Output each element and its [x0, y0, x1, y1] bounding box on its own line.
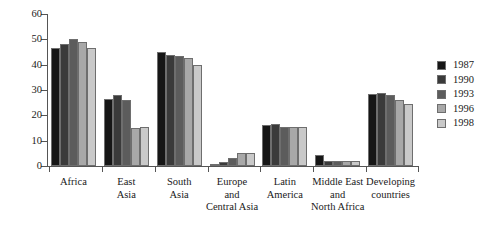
x-axis-tick-mark	[102, 166, 103, 172]
bar-group	[50, 14, 97, 166]
bar	[87, 48, 96, 166]
bar	[104, 99, 113, 166]
bar	[228, 158, 237, 166]
y-axis-tick-label: 10	[32, 135, 43, 146]
x-axis-category-label: Africa	[60, 176, 87, 189]
bar	[51, 48, 60, 166]
bar-group	[103, 14, 150, 166]
legend-item[interactable]: 1987	[437, 58, 474, 73]
y-axis-tick-label: 30	[32, 85, 43, 96]
legend-swatch	[437, 119, 446, 128]
bar	[237, 153, 246, 166]
legend-swatch	[437, 90, 446, 99]
bar	[60, 44, 69, 166]
legend-item[interactable]: 1996	[437, 102, 474, 117]
x-axis-category-label: Middle EastandNorth Africa	[311, 176, 364, 214]
x-axis-category-label: EuropeandCentral Asia	[206, 176, 258, 214]
bar	[219, 162, 228, 166]
x-axis-category-label: EastAsia	[117, 176, 136, 201]
x-axis-tick-mark	[313, 166, 314, 172]
legend-label: 1987	[453, 60, 474, 71]
x-axis-category-label-line: Developing	[366, 176, 415, 189]
legend-swatch	[437, 104, 446, 113]
x-axis-category-label-line: and	[206, 189, 258, 202]
bar	[342, 161, 351, 166]
bar	[404, 104, 413, 166]
bar	[166, 55, 175, 166]
bar	[246, 153, 255, 166]
legend-item[interactable]: 1990	[437, 73, 474, 88]
legend-label: 1998	[453, 118, 474, 129]
legend-item[interactable]: 1993	[437, 87, 474, 102]
bar	[315, 155, 324, 166]
x-axis-category-label-line: Africa	[60, 176, 87, 189]
bar-group	[209, 14, 256, 166]
bar	[113, 95, 122, 166]
x-axis-category-label-line: Asia	[117, 189, 136, 202]
y-axis-tick-label: 40	[32, 59, 43, 70]
x-axis-category-label-line: North Africa	[311, 201, 364, 214]
x-axis-category-label: Developingcountries	[366, 176, 415, 201]
bar	[333, 161, 342, 166]
x-axis-category-label-line: America	[267, 189, 303, 202]
bar	[368, 94, 377, 166]
bar-chart: 0102030405060 AfricaEastAsiaSouthAsiaEur…	[0, 0, 500, 232]
bar	[184, 58, 193, 166]
bar	[175, 56, 184, 166]
bar	[210, 164, 219, 166]
x-axis-category-label-line: East	[117, 176, 136, 189]
x-axis-tick-mark	[260, 166, 261, 172]
legend-label: 1996	[453, 104, 474, 115]
bar	[262, 125, 271, 166]
x-axis-category-label: LatinAmerica	[267, 176, 303, 201]
bar	[386, 95, 395, 166]
x-axis-tick-mark	[49, 166, 50, 172]
bar	[131, 128, 140, 166]
bar	[193, 65, 202, 166]
bar-group	[156, 14, 203, 166]
bar	[69, 39, 78, 166]
x-axis-tick-mark	[208, 166, 209, 172]
bar	[395, 100, 404, 166]
y-axis-tick-label: 20	[32, 110, 43, 121]
bar	[298, 127, 307, 166]
x-axis-category-label-line: Asia	[167, 189, 192, 202]
x-axis-tick-mark	[418, 166, 419, 172]
bar	[122, 100, 131, 166]
bar	[78, 42, 87, 166]
y-axis-tick-label: 50	[32, 34, 43, 45]
x-axis-category-label-line: Latin	[267, 176, 303, 189]
plot-area: 0102030405060	[47, 14, 417, 166]
bar	[280, 127, 289, 166]
chart-legend: 19871990199319961998	[437, 58, 474, 131]
bar	[271, 124, 280, 166]
x-axis-tick-mark	[155, 166, 156, 172]
bar	[377, 93, 386, 166]
bar	[140, 127, 149, 166]
bar	[351, 161, 360, 166]
legend-label: 1990	[453, 75, 474, 86]
legend-swatch	[437, 61, 446, 70]
bar	[289, 127, 298, 166]
x-axis-tick-mark	[366, 166, 367, 172]
bar-group	[261, 14, 308, 166]
x-axis-category-label-line: countries	[366, 189, 415, 202]
bar	[324, 161, 333, 166]
bar	[157, 52, 166, 166]
x-axis-category-label-line: Central Asia	[206, 201, 258, 214]
x-axis-category-label-line: Middle East	[311, 176, 364, 189]
x-axis-category-label-line: Europe	[206, 176, 258, 189]
legend-label: 1993	[453, 89, 474, 100]
y-axis-tick-label: 60	[32, 9, 43, 20]
bar-group	[314, 14, 361, 166]
x-axis-category-label-line: and	[311, 189, 364, 202]
bar-group	[367, 14, 414, 166]
y-axis-tick-label: 0	[37, 161, 42, 172]
x-axis-category-label-line: South	[167, 176, 192, 189]
legend-item[interactable]: 1998	[437, 116, 474, 131]
legend-swatch	[437, 75, 446, 84]
x-axis-category-label: SouthAsia	[167, 176, 192, 201]
